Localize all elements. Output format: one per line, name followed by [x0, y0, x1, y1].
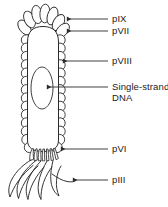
label-pvii: pVII: [112, 25, 129, 36]
tail-band-strip: [42, 149, 44, 161]
phage-diagram-canvas: [0, 0, 168, 207]
dna-ellipse: [31, 67, 53, 109]
label-pix: pIX: [112, 13, 127, 24]
label-pviii: pVIII: [112, 55, 132, 66]
label-single-stranded-dna-line1: Single-stranded: [112, 81, 168, 92]
label-single-stranded-dna-line2: DNA: [112, 92, 132, 103]
label-pvi: pVI: [112, 143, 127, 154]
tail-fiber-hook: [52, 174, 76, 182]
phage-diagram-figure: pIX pVII pVIII Single-stranded DNA pVI p…: [0, 0, 168, 207]
tail-fibers-group: [9, 160, 76, 200]
tail-band-strip: [38, 149, 41, 161]
label-piii: pIII: [112, 174, 126, 185]
tail-fiber: [38, 161, 52, 200]
